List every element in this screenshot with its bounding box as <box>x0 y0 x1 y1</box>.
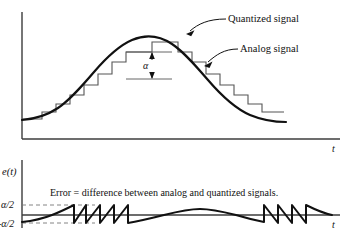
alpha-label: α <box>143 60 149 71</box>
quantized-signal-label: Quantized signal <box>228 13 299 24</box>
figure-svg: t α Quantized signal Analog signal <box>0 0 350 232</box>
quantization-figure: t α Quantized signal Analog signal <box>0 0 350 232</box>
analog-callout-leader <box>208 49 238 62</box>
top-plot: t α Quantized signal Analog signal <box>22 12 340 154</box>
top-plot-x-axis-label: t <box>332 143 335 154</box>
error-caption: Error = difference between analog and qu… <box>50 187 278 198</box>
bottom-plot: e(t) t α/2 -α/2 Error = difference betwe… <box>0 160 340 230</box>
alpha-arrowhead-up-icon <box>149 52 155 59</box>
error-plot-y-axis-label: e(t) <box>2 166 17 178</box>
error-upper-bound-label: α/2 <box>1 199 14 210</box>
alpha-arrowhead-down-icon <box>149 72 155 79</box>
analog-signal-label: Analog signal <box>240 43 299 54</box>
error-plot-x-axis-label: t <box>332 219 335 230</box>
quantization-error-waveform <box>22 205 332 223</box>
error-lower-bound-label: -α/2 <box>0 218 14 229</box>
quantized-callout-leader <box>190 19 226 31</box>
